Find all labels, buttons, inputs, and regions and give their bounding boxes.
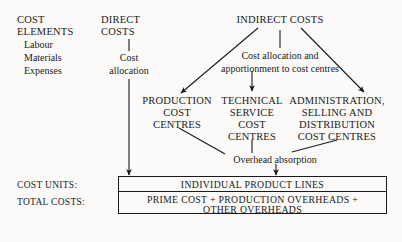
technical-service-cost-centres-line3: COST — [212, 119, 292, 131]
cost-units-value: INDIVIDUAL PRODUCT LINES — [118, 179, 387, 191]
administration-cost-centres-line3: DISTRIBUTION — [287, 119, 387, 131]
direct-costs-process-line1: Cost — [79, 52, 179, 64]
overhead-absorption-label: Overhead absorption — [205, 154, 345, 166]
direct-costs-heading-line1: DIRECT — [101, 14, 140, 26]
indirect-costs-process-line2: apportionment to cost centres — [180, 63, 380, 75]
cost-elements-heading-line1: COST — [17, 14, 45, 26]
cost-elements-heading-line2: ELEMENTS — [17, 26, 73, 38]
administration-cost-centres-line2: SELLING AND — [287, 107, 387, 119]
direct-costs-process-line2: allocation — [79, 65, 179, 77]
total-costs-label: TOTAL COSTS: — [17, 197, 85, 208]
direct-costs-heading-line2: COSTS — [101, 26, 135, 38]
technical-service-cost-centres-line2: SERVICE — [212, 107, 292, 119]
cost-units-label: COST UNITS: — [17, 180, 77, 191]
cost-element-item-materials: Materials — [24, 52, 62, 64]
technical-service-cost-centres-line4: CENTRES — [212, 131, 292, 143]
administration-cost-centres-line1: ADMINISTRATION, — [287, 95, 387, 107]
outcome-box-divider — [118, 191, 387, 192]
cost-element-item-expenses: Expenses — [24, 65, 62, 77]
cost-element-item-labour: Labour — [24, 39, 53, 51]
indirect-costs-heading: INDIRECT COSTS — [180, 14, 380, 26]
indirect-costs-process-line1: Cost allocation and — [180, 50, 380, 62]
total-costs-value-line2: OTHER OVERHEADS — [118, 204, 387, 216]
cost-flow-diagram: COST ELEMENTS Labour Materials Expenses … — [0, 0, 402, 242]
administration-cost-centres-line4: COST CENTRES — [287, 131, 387, 143]
technical-service-cost-centres-line1: TECHNICAL — [212, 95, 292, 107]
